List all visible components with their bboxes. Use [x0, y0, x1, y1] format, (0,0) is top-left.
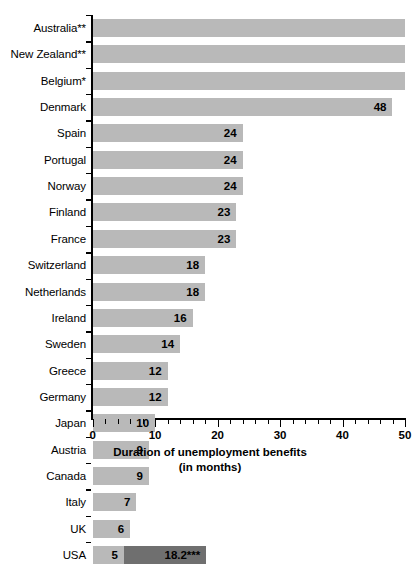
category-label-italy: Italy	[0, 489, 86, 515]
category-label-uk: UK	[0, 516, 86, 542]
category-label-greece: Greece	[0, 358, 86, 384]
bar-value-label: 7	[93, 493, 131, 511]
y-axis-tick	[86, 147, 91, 148]
bar-row: Finland23	[0, 199, 420, 225]
y-axis-tick	[86, 68, 91, 69]
y-axis-tick	[86, 358, 91, 359]
category-label-sweden: Sweden	[0, 331, 86, 357]
bar-value-label: 18	[93, 283, 199, 301]
x-axis-minor-tick	[180, 419, 181, 424]
y-axis-tick	[86, 41, 91, 42]
category-label-portugal: Portugal	[0, 147, 86, 173]
y-axis-tick	[86, 120, 91, 121]
x-axis-major-tick	[405, 419, 406, 427]
bar-value-label: 10	[93, 414, 149, 432]
x-axis-minor-tick	[255, 419, 256, 424]
bar-value-label: 12	[93, 388, 162, 406]
bar-value-label: 12	[93, 362, 162, 380]
category-label-denmark: Denmark	[0, 94, 86, 120]
x-axis-minor-tick	[168, 419, 169, 424]
x-axis-minor-tick	[130, 419, 131, 424]
bar-row: Switzerland18	[0, 252, 420, 278]
x-axis-title-line2: (in months)	[0, 461, 420, 473]
x-axis-major-tick	[155, 419, 156, 427]
x-axis-title-line1: Duration of unemployment benefits	[0, 446, 420, 458]
x-axis-tick-label: 50	[399, 429, 412, 441]
bar-row: Norway24	[0, 173, 420, 199]
x-axis-minor-tick	[268, 419, 269, 424]
y-axis-tick	[86, 279, 91, 280]
category-label-australia: Australia**	[0, 15, 86, 41]
x-axis-tick-label: 20	[211, 429, 224, 441]
x-axis-minor-tick	[230, 419, 231, 424]
y-axis-tick	[86, 15, 91, 16]
x-axis-minor-tick	[193, 419, 194, 424]
y-axis-tick	[86, 331, 91, 332]
bar-value-label: 23	[93, 230, 231, 248]
bar-row: Spain24	[0, 120, 420, 146]
x-axis-major-tick	[343, 419, 344, 427]
category-label-belgium: Belgium*	[0, 68, 86, 94]
bar-row: Japan10	[0, 410, 420, 436]
bar-value-label: 24	[93, 124, 237, 142]
bar-value-label: 6	[93, 520, 124, 538]
bar-row: Australia**	[0, 15, 420, 41]
x-axis-tick-label: 30	[274, 429, 287, 441]
bar-value-label: 24	[93, 177, 237, 195]
y-axis-tick	[86, 252, 91, 253]
x-axis-minor-tick	[143, 419, 144, 424]
x-axis-minor-tick	[105, 419, 106, 424]
bar-value-label: 24	[93, 151, 237, 169]
y-axis-tick	[86, 516, 91, 517]
bar-segment-primary	[93, 72, 405, 90]
bar-row: Portugal24	[0, 147, 420, 173]
bar-row: Italy7	[0, 489, 420, 515]
x-axis-minor-tick	[368, 419, 369, 424]
bar-value-label: 23	[93, 203, 231, 221]
bar-row: Netherlands18	[0, 279, 420, 305]
y-axis-tick	[86, 384, 91, 385]
x-axis-tick-label: 10	[149, 429, 162, 441]
bar-row: USA518.2***	[0, 542, 420, 568]
category-label-spain: Spain	[0, 120, 86, 146]
bar-segment-primary	[93, 45, 405, 63]
bar-row: France23	[0, 226, 420, 252]
x-axis-minor-tick	[118, 419, 119, 424]
bar-row: Belgium*	[0, 68, 420, 94]
bar-row: Germany12	[0, 384, 420, 410]
y-axis-tick	[86, 489, 91, 490]
y-axis-tick	[86, 542, 91, 543]
x-axis-minor-tick	[380, 419, 381, 424]
x-axis-minor-tick	[305, 419, 306, 424]
bar-row: UK6	[0, 516, 420, 542]
bar-value-label: 14	[93, 335, 174, 353]
bar-row: Greece12	[0, 358, 420, 384]
bar-segment-primary	[93, 19, 405, 37]
y-axis-tick	[86, 94, 91, 95]
x-axis-tick-label: 40	[336, 429, 349, 441]
category-label-finland: Finland	[0, 199, 86, 225]
x-axis-tick-label: 0	[89, 429, 95, 441]
bar-value-label: 48	[93, 98, 387, 116]
bar-value-label: 18	[93, 256, 199, 274]
x-axis-minor-tick	[318, 419, 319, 424]
x-axis-major-tick	[93, 419, 94, 427]
category-label-newzealand: New Zealand**	[0, 41, 86, 67]
x-axis-minor-tick	[243, 419, 244, 424]
x-axis-minor-tick	[205, 419, 206, 424]
x-axis-major-tick	[280, 419, 281, 427]
bar-row: Ireland16	[0, 305, 420, 331]
x-axis-minor-tick	[293, 419, 294, 424]
y-axis-tick	[86, 410, 91, 411]
bar-value-label: 16	[93, 309, 187, 327]
x-axis-minor-tick	[330, 419, 331, 424]
x-axis-minor-tick	[355, 419, 356, 424]
bar-extension-value-label: 18.2***	[124, 546, 200, 564]
y-axis-tick	[86, 226, 91, 227]
category-label-netherlands: Netherlands	[0, 279, 86, 305]
bar-row: Denmark48	[0, 94, 420, 120]
category-label-japan: Japan	[0, 410, 86, 436]
y-axis-tick	[86, 173, 91, 174]
category-label-ireland: Ireland	[0, 305, 86, 331]
